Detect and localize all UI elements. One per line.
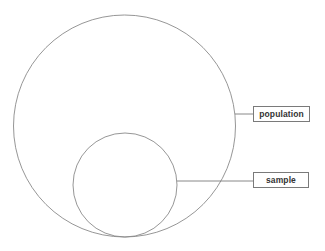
population-label: population <box>253 106 310 122</box>
sample-circle <box>73 133 177 237</box>
sample-label: sample <box>253 172 309 188</box>
nested-circles-diagram <box>0 0 325 251</box>
population-circle <box>14 15 236 237</box>
